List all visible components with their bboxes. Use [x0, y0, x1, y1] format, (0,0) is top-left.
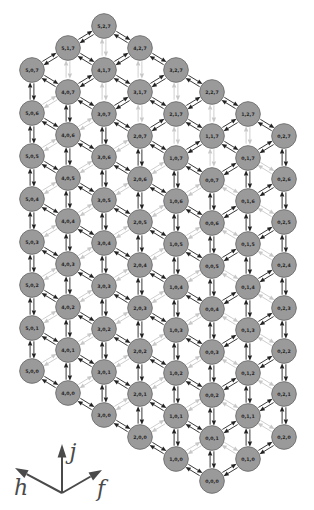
edge-arrowhead-icon [223, 257, 229, 262]
edge-arrowhead-icon [89, 187, 95, 192]
hidden-edge-arrowhead-icon [51, 139, 57, 144]
edge-arrowhead-icon [244, 256, 248, 261]
edge-arrowhead-icon [223, 300, 229, 305]
hidden-edge-arrowhead-icon [269, 209, 275, 214]
edge-arrowhead-icon [208, 450, 212, 455]
edge-arrowhead-icon [140, 291, 144, 296]
lattice-diagram: 5,2,75,1,75,0,74,2,74,1,74,0,73,2,73,1,7… [0, 0, 314, 510]
hidden-edge-arrowhead-icon [233, 231, 239, 236]
node-label: 0,0,7 [205, 178, 218, 183]
edge-arrowhead-icon [78, 100, 84, 105]
node-label: 2,0,0 [133, 435, 147, 440]
node-label: 3,0,1 [97, 370, 110, 375]
edge-arrowhead-icon [64, 276, 68, 281]
edge-arrowhead-icon [125, 338, 131, 343]
hidden-edge-arrowhead-icon [233, 188, 239, 193]
edge-arrowhead-icon [231, 163, 237, 168]
edge-arrowhead-icon [212, 206, 216, 211]
hidden-edge-arrowhead-icon [51, 225, 57, 230]
edge-arrowhead-icon [208, 407, 212, 412]
edge-arrowhead-icon [172, 170, 176, 175]
hidden-edge-arrowhead-icon [222, 273, 228, 278]
edge-arrowhead-icon [186, 122, 192, 127]
edge-arrowhead-icon [89, 230, 95, 235]
node-label: 4,0,4 [61, 219, 75, 224]
nodes-layer: 5,2,75,1,75,0,74,2,74,1,74,0,73,2,73,1,7… [20, 14, 297, 494]
edge-arrowhead-icon [100, 341, 104, 346]
edge-arrowhead-icon [172, 213, 176, 218]
hidden-edge-arrowhead-icon [212, 162, 216, 167]
hidden-edge-arrowhead-icon [269, 166, 275, 171]
edge-arrowhead-icon [89, 402, 95, 407]
node-label: 3,2,7 [169, 68, 182, 73]
edge-arrowhead-icon [89, 273, 95, 278]
node-label: 1,0,3 [169, 328, 182, 333]
edge-arrowhead-icon [136, 191, 140, 196]
edge-arrowhead-icon [114, 122, 120, 127]
edge-arrowhead-icon [100, 298, 104, 303]
edge-arrowhead-icon [197, 382, 203, 387]
hidden-edge-arrowhead-icon [187, 235, 193, 240]
hidden-edge-arrowhead-icon [151, 385, 157, 390]
edge-arrowhead-icon [42, 121, 48, 126]
hidden-edge-arrowhead-icon [43, 362, 49, 367]
edge-arrowhead-icon [161, 446, 167, 451]
hidden-edge-arrowhead-icon [123, 226, 129, 231]
edge-arrowhead-icon [161, 403, 167, 408]
node-label: 0,1,6 [241, 199, 255, 204]
edge-arrowhead-icon [284, 377, 288, 382]
edge-arrowhead-icon [161, 317, 167, 322]
hidden-edge-arrowhead-icon [43, 190, 49, 195]
hidden-edge-arrowhead-icon [79, 212, 85, 217]
edge-arrowhead-icon [32, 354, 36, 359]
node-label: 4,2,7 [133, 46, 146, 51]
edge-arrowhead-icon [104, 183, 108, 188]
hidden-edge-arrowhead-icon [43, 147, 49, 152]
edge-arrowhead-icon [136, 363, 140, 368]
edge-arrowhead-icon [42, 207, 48, 212]
edge-arrowhead-icon [136, 320, 140, 325]
edge-arrowhead-icon [64, 104, 68, 109]
node-label: 3,0,2 [97, 327, 110, 332]
node-label: 0,1,5 [241, 242, 254, 247]
hidden-edge-arrowhead-icon [258, 208, 264, 213]
node-label: 3,0,4 [97, 241, 111, 246]
edge-arrowhead-icon [186, 467, 192, 472]
hidden-edge-arrowhead-icon [176, 140, 180, 145]
node-label: 4,0,1 [61, 348, 74, 353]
edge-arrowhead-icon [78, 186, 84, 191]
edge-arrowhead-icon [222, 144, 228, 149]
node-label: 3,1,7 [133, 90, 146, 95]
node-label: 2,2,7 [205, 90, 218, 95]
edge-arrowhead-icon [222, 100, 228, 105]
edge-arrowhead-icon [197, 123, 203, 128]
edge-arrowhead-icon [161, 57, 167, 62]
edge-arrowhead-icon [42, 379, 48, 384]
edge-arrowhead-icon [197, 468, 203, 473]
lattice-root: 5,2,75,1,75,0,74,2,74,1,74,0,73,2,73,1,7… [20, 14, 297, 494]
edge-arrowhead-icon [159, 119, 165, 124]
node-label: 1,0,2 [169, 371, 182, 376]
edge-arrowhead-icon [140, 162, 144, 167]
edge-arrowhead-icon [104, 140, 108, 145]
edge-arrowhead-icon [100, 126, 104, 131]
hidden-edge-arrowhead-icon [258, 423, 264, 428]
edge-arrowhead-icon [172, 256, 176, 261]
edge-arrowhead-icon [208, 278, 212, 283]
edge-arrowhead-icon [197, 296, 203, 301]
node-label: 5,0,1 [25, 326, 38, 331]
node-label: 0,0,6 [205, 221, 219, 226]
edge-arrowhead-icon [28, 125, 32, 130]
edge-arrowhead-icon [136, 148, 140, 153]
node-label: 4,0,3 [61, 262, 74, 267]
edge-arrowhead-icon [197, 167, 203, 172]
node-label: 0,1,1 [241, 414, 254, 419]
edge-arrowhead-icon [208, 321, 212, 326]
hidden-edge-arrowhead-icon [87, 204, 93, 209]
node-label: 0,0,3 [205, 350, 218, 355]
hidden-edge-arrowhead-icon [269, 381, 275, 386]
edge-arrowhead-icon [284, 162, 288, 167]
edge-arrowhead-icon [186, 295, 192, 300]
edge-arrowhead-icon [186, 338, 192, 343]
edge-arrowhead-icon [150, 100, 156, 105]
